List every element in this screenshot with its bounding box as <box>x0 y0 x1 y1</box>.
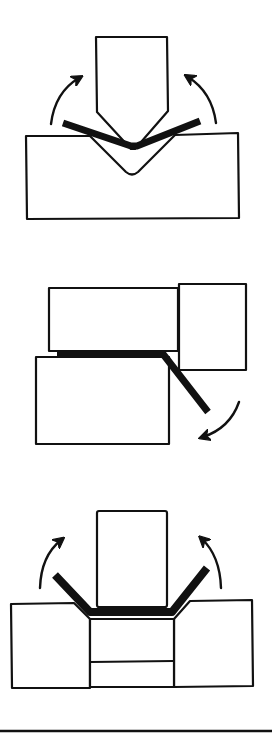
arrow-right-up-icon <box>188 77 216 123</box>
lower-die <box>36 357 169 444</box>
bending-diagram <box>0 0 272 741</box>
arrow-left-up-icon <box>51 78 79 124</box>
figure-u-bending <box>11 511 253 688</box>
punch <box>97 511 167 607</box>
die-right <box>174 600 253 687</box>
ejector-divider <box>91 661 173 662</box>
ejector-pad <box>90 619 174 687</box>
arrow-right-up-icon <box>202 539 221 588</box>
pressure-pad <box>49 288 178 351</box>
figure-wipe-bending <box>36 284 246 444</box>
punch <box>96 37 168 149</box>
wiper-block <box>179 284 246 370</box>
die-left <box>11 603 90 688</box>
figure-v-bending <box>26 37 239 219</box>
